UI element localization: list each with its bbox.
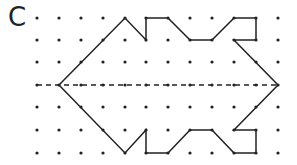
grid-dot (35, 16, 38, 19)
grid-dot (57, 83, 60, 86)
grid-dot (79, 105, 82, 108)
grid-dot (35, 105, 38, 108)
grid-dot (144, 83, 147, 86)
grid-dot (123, 38, 126, 41)
grid-dot (188, 105, 191, 108)
grid-dot (210, 60, 213, 63)
grid-dot (276, 105, 279, 108)
grid-dot (101, 128, 104, 131)
grid-dot (79, 151, 82, 154)
grid-dot (166, 128, 169, 131)
grid-dot (210, 105, 213, 108)
grid-dot (254, 83, 257, 86)
grid-dot (35, 128, 38, 131)
grid-dot (232, 16, 235, 19)
grid-dot (79, 60, 82, 63)
grid-dot (254, 128, 257, 131)
grid-dot (123, 151, 126, 154)
grid-dot (276, 128, 279, 131)
grid-dot (254, 38, 257, 41)
grid-dot (232, 128, 235, 131)
grid-dot (188, 60, 191, 63)
grid-dot (232, 105, 235, 108)
grid-dot (144, 128, 147, 131)
grid-dot (57, 151, 60, 154)
grid-dot (254, 16, 257, 19)
grid-dot (166, 151, 169, 154)
grid-dot (144, 105, 147, 108)
grid-dot (232, 83, 235, 86)
grid-dot (101, 151, 104, 154)
grid-dot (35, 60, 38, 63)
grid-dot (210, 16, 213, 19)
grid-dot (57, 60, 60, 63)
grid-dot (101, 16, 104, 19)
grid-dot (188, 16, 191, 19)
grid-dot (188, 128, 191, 131)
grid-dot (276, 38, 279, 41)
grid-dot (35, 83, 38, 86)
grid-dot (57, 38, 60, 41)
grid-dot (210, 128, 213, 131)
grid-dot (79, 38, 82, 41)
grid-dot (188, 38, 191, 41)
grid-dot (276, 16, 279, 19)
grid-dot (232, 60, 235, 63)
grid-dot (144, 151, 147, 154)
grid-dot (210, 83, 213, 86)
grid-dot (123, 128, 126, 131)
grid-dot (276, 60, 279, 63)
grid-dot (101, 38, 104, 41)
grid-dot (57, 105, 60, 108)
grid-dot (79, 128, 82, 131)
grid-dot (254, 151, 257, 154)
grid-dot (166, 83, 169, 86)
grid-dot (144, 38, 147, 41)
grid-dot (254, 60, 257, 63)
grid-dot (166, 105, 169, 108)
grid-dot (101, 83, 104, 86)
grid-dot (123, 83, 126, 86)
grid-dot (57, 128, 60, 131)
grid-dot (35, 38, 38, 41)
dot-grid-diagram (0, 0, 297, 165)
grid-dot (276, 151, 279, 154)
grid-dot (166, 16, 169, 19)
grid-dot (144, 60, 147, 63)
grid-dot (188, 83, 191, 86)
grid-dot (79, 16, 82, 19)
grid-dot (232, 38, 235, 41)
grid-dot (188, 151, 191, 154)
grid-dot (254, 105, 257, 108)
grid-dot (232, 151, 235, 154)
grid-dot (79, 83, 82, 86)
grid-dot (210, 151, 213, 154)
grid-dot (123, 16, 126, 19)
grid-dot (166, 38, 169, 41)
grid-dot (276, 83, 279, 86)
grid-dot (166, 60, 169, 63)
grid-dot (144, 16, 147, 19)
grid-dot (210, 38, 213, 41)
grid-dot (101, 60, 104, 63)
grid-dot (35, 151, 38, 154)
grid-dot (123, 105, 126, 108)
grid-dot (57, 16, 60, 19)
grid-dot (101, 105, 104, 108)
grid-dot (123, 60, 126, 63)
